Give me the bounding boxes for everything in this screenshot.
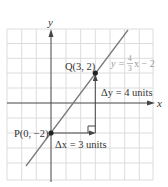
equation-denominator: 3 <box>128 64 132 73</box>
y-axis-arrow-icon <box>49 29 54 37</box>
equation-label: y = 4 3 x − 2 <box>110 54 155 73</box>
grid <box>7 29 153 180</box>
equation-rest: x − 2 <box>134 58 155 69</box>
point-q-label: Q(3, 2) <box>65 61 96 73</box>
equation-y: y = <box>110 58 125 69</box>
equation-numerator: 4 <box>128 54 132 63</box>
x-axis-arrow-icon <box>147 101 155 106</box>
delta-x-label: Δx = 3 units <box>55 139 106 150</box>
slope-graph: x y P(0, −2) Q(3, 2) Δx = 3 units Δy = 4… <box>0 0 168 187</box>
y-axis-label: y <box>47 16 53 28</box>
point-p <box>48 130 53 135</box>
delta-y-label: Δy = 4 units <box>101 87 152 98</box>
point-p-label: P(0, −2) <box>14 128 49 140</box>
x-axis-label: x <box>156 97 162 109</box>
